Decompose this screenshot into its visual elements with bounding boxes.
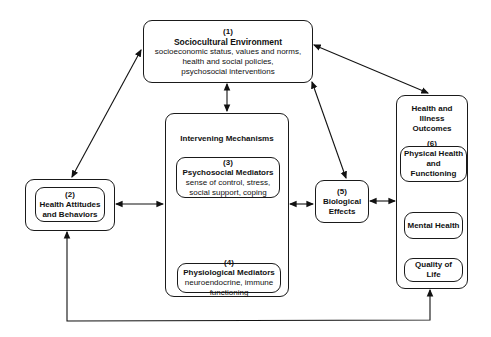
box-detail-line: functioning bbox=[210, 288, 249, 298]
box-title-line: and bbox=[426, 159, 440, 169]
box-detail-line: sense of control, stress, bbox=[186, 178, 270, 188]
box-detail-line: socioeconomic status, values and norms, bbox=[155, 47, 301, 57]
box-number: (2) bbox=[65, 190, 75, 200]
box-title-line: Illness bbox=[397, 114, 467, 124]
biological-effects-box: (5) Biological Effects bbox=[315, 180, 369, 223]
intervening-mechanisms-box: Intervening Mechanisms (3) Psychosocial … bbox=[165, 113, 289, 297]
box-number: (4) bbox=[224, 258, 234, 268]
box-title-line: Functioning bbox=[411, 169, 457, 179]
box-number: (3) bbox=[223, 158, 233, 168]
box-title-line: Quality of bbox=[415, 260, 452, 270]
physiological-mediators-box: (4) Physiological Mediators neuroendocri… bbox=[177, 263, 281, 293]
mental-health-box: Mental Health bbox=[404, 212, 463, 239]
psychosocial-mediators-box: (3) Psychosocial Mediators sense of cont… bbox=[176, 157, 280, 198]
box-number: (1) bbox=[223, 27, 233, 37]
health-attitudes-outer-box: (2) Health Attitudes and Behaviors bbox=[25, 179, 115, 231]
box-title-line: Biological bbox=[323, 197, 361, 207]
box-title-line: Outcomes bbox=[397, 124, 467, 134]
health-attitudes-box: (2) Health Attitudes and Behaviors bbox=[35, 187, 105, 222]
box-title-line: Life bbox=[426, 270, 440, 280]
box-title-line: Health and bbox=[397, 104, 467, 114]
box-detail-line: health and social policies, bbox=[182, 57, 273, 67]
box-title-line: and Behaviors bbox=[42, 210, 97, 220]
box-detail-line: psychosocial interventions bbox=[181, 67, 274, 77]
quality-of-life-box: Quality of Life bbox=[404, 258, 463, 282]
box-detail-line: social support, coping bbox=[189, 188, 266, 198]
box-title: Sociocultural Environment bbox=[174, 37, 282, 47]
box-title-line: Health Attitudes bbox=[39, 200, 100, 210]
box-title: Psychosocial Mediators bbox=[182, 168, 273, 178]
physical-health-box: Physical Health and Functioning bbox=[400, 146, 467, 182]
box-number: (5) bbox=[337, 187, 347, 197]
box-title: Intervening Mechanisms bbox=[166, 134, 288, 144]
box-title-line: Physical Health bbox=[404, 149, 463, 159]
box-title: Physiological Mediators bbox=[183, 268, 275, 278]
box-title-line: Effects bbox=[329, 207, 356, 217]
box-detail-line: neuroendocrine, immune bbox=[185, 278, 274, 288]
sociocultural-environment-box: (1) Sociocultural Environment socioecono… bbox=[143, 20, 313, 83]
health-illness-outcomes-box: Health and Illness Outcomes (6) Physical… bbox=[396, 95, 468, 289]
box-title: Mental Health bbox=[407, 221, 459, 231]
